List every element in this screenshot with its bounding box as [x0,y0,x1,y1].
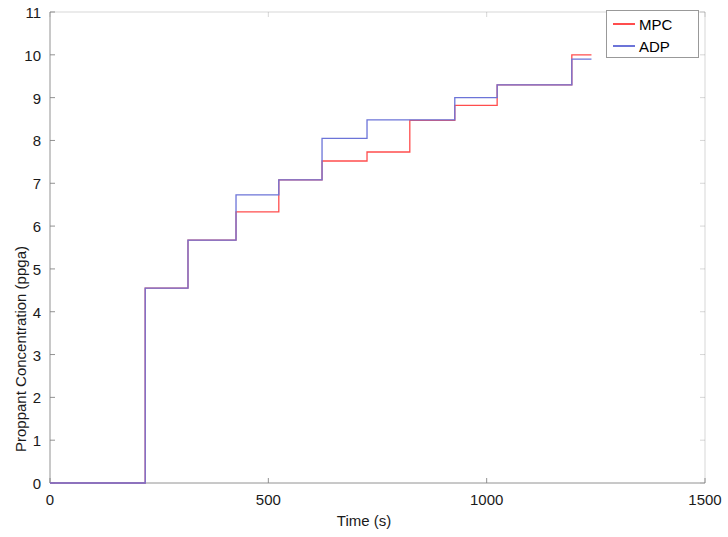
y-tick-label: 9 [0,89,41,106]
x-tick-label: 1500 [688,491,721,508]
legend-swatch-mpc [613,23,635,25]
y-axis-title: Proppant Concentration (ppga) [12,246,29,452]
legend-entry-adp: ADP [607,35,700,57]
x-tick-label: 1000 [470,491,503,508]
series-line-adp [50,59,591,483]
series-line-mpc [50,55,591,483]
x-axis-title: Time (s) [0,512,728,529]
legend-label-mpc: MPC [639,17,672,32]
y-tick-label: 10 [0,46,41,63]
plot-canvas [0,0,728,537]
legend-entry-mpc: MPC [607,13,700,35]
axis-lines [50,12,705,483]
legend: MPC ADP [606,10,699,58]
y-tick-label: 8 [0,132,41,149]
axis-ticks [50,12,705,483]
y-tick-label: 7 [0,175,41,192]
legend-swatch-adp [613,45,635,47]
legend-label-adp: ADP [639,39,670,54]
y-tick-label: 6 [0,218,41,235]
y-tick-label: 0 [0,475,41,492]
x-tick-label: 500 [256,491,281,508]
x-tick-label: 0 [46,491,54,508]
y-tick-label: 11 [0,4,41,21]
data-series-group [50,55,591,483]
chart-figure: 01234567891011 050010001500 Proppant Con… [0,0,728,537]
